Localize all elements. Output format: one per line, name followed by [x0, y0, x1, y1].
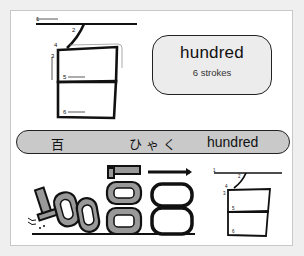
stroke-number-6: 6 — [63, 109, 67, 115]
banner-meaning: hundred — [207, 134, 258, 150]
small-stroke-number-2: 2 — [238, 174, 241, 179]
banner-kanji: 百 — [51, 134, 64, 153]
stroke-order-diagram-small: 1 2 3 4 5 6 — [200, 160, 304, 256]
stroke-number-2: 2 — [72, 27, 76, 33]
small-stroke-number-5: 5 — [232, 206, 235, 211]
stroke-number-4: 4 — [54, 42, 58, 48]
small-stroke-number-6: 6 — [232, 229, 235, 234]
banner-reading: ひゃく — [129, 134, 180, 153]
mnemonic-illustration — [0, 160, 200, 250]
meaning-title: hundred — [153, 43, 271, 63]
stroke-number-3: 3 — [51, 53, 55, 59]
small-stroke-number-4: 4 — [225, 184, 228, 189]
stroke-order-diagram-large: 1 2 3 4 5 6 — [0, 0, 150, 125]
meaning-pill: hundred 6 strokes — [152, 35, 272, 95]
small-stroke-number-3: 3 — [223, 191, 226, 196]
stroke-number-5: 5 — [63, 74, 67, 80]
stroke-count: 6 strokes — [153, 67, 271, 78]
kanji-info-banner: 百 ひゃく hundred — [16, 130, 290, 154]
